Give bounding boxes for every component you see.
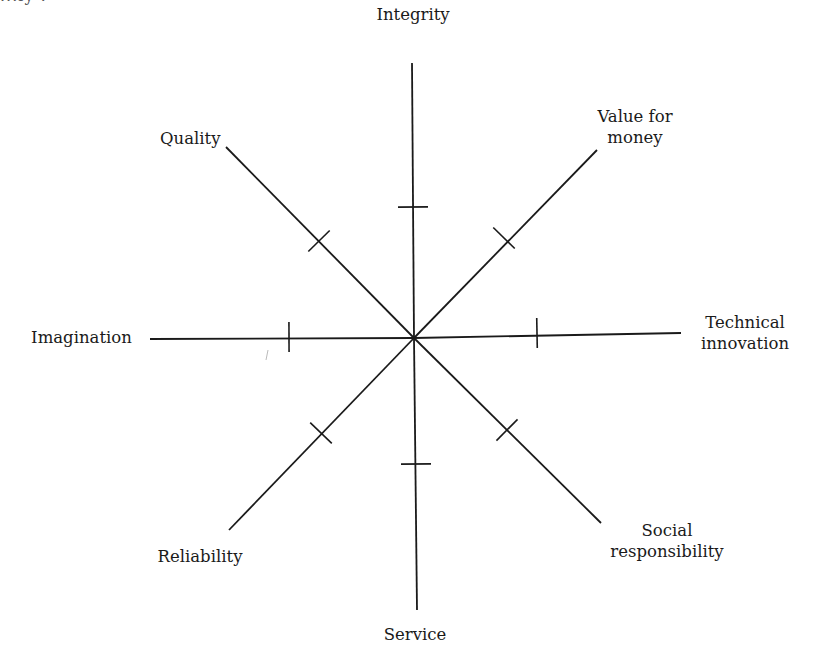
axis-label-line: Imagination <box>24 327 139 348</box>
axis-line-technical-innovation <box>414 333 681 338</box>
axis-label-service: Service <box>370 624 460 645</box>
axis-label-line: Reliability <box>150 546 250 567</box>
axis-line-service <box>414 338 417 610</box>
axis-line-value-for-money <box>414 150 597 338</box>
axis-label-social-responsibility: Socialresponsibility <box>597 520 737 562</box>
spoke-diagram: ...ly : IntegrityValue formoneyTechnical… <box>0 0 817 655</box>
axis-label-line: money <box>590 127 680 148</box>
axis-line-quality <box>226 147 414 338</box>
axis-label-line: Integrity <box>368 4 458 25</box>
axis-label-reliability: Reliability <box>150 546 250 567</box>
axis-label-line: Quality <box>160 128 220 149</box>
axis-label-value-for-money: Value formoney <box>590 106 680 148</box>
axis-label-line: responsibility <box>597 541 737 562</box>
stray-pencil-mark <box>266 350 268 360</box>
axis-label-line: innovation <box>690 333 800 354</box>
axis-line-integrity <box>412 63 414 338</box>
axis-label-integrity: Integrity <box>368 4 458 25</box>
axis-label-line: Value for <box>590 106 680 127</box>
axis-label-line: Social <box>597 520 737 541</box>
axis-label-quality: Quality <box>160 128 220 149</box>
axis-line-imagination <box>150 338 414 339</box>
axis-label-line: Service <box>370 624 460 645</box>
tick-mark-technical-innovation <box>537 318 538 348</box>
axis-label-line: Technical <box>690 312 800 333</box>
axis-label-imagination: Imagination <box>24 327 139 348</box>
axis-label-technical-innovation: Technicalinnovation <box>690 312 800 354</box>
